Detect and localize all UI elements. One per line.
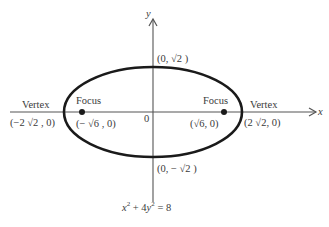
left-vertex-role: Vertex — [22, 99, 50, 110]
left-focus-coord: (− √6 , 0) — [76, 118, 116, 130]
right-focus-point — [221, 109, 227, 115]
bottom-covertex-coord: (0, − √2 ) — [157, 163, 197, 175]
left-focus-point — [79, 109, 85, 115]
right-focus-role: Focus — [203, 95, 228, 106]
equation-rhs: = 8 — [155, 202, 171, 213]
ellipse-diagram: y x 0 Vertex (−2 √2 , 0) Focus (− √6 , 0… — [0, 0, 329, 227]
equation-label: x2 + 4y2 = 8 — [121, 200, 171, 213]
top-covertex-coord: (0, √2 ) — [157, 53, 189, 65]
left-focus-role: Focus — [76, 95, 101, 106]
diagram-canvas: y x 0 Vertex (−2 √2 , 0) Focus (− √6 , 0… — [0, 0, 329, 227]
equation-plus: + 4 — [130, 202, 147, 213]
y-axis-label: y — [145, 8, 151, 19]
right-focus-coord: (√6, 0) — [190, 118, 219, 130]
left-vertex-coord: (−2 √2 , 0) — [10, 117, 55, 129]
right-vertex-role: Vertex — [250, 99, 278, 110]
right-vertex-coord: (2 √2, 0) — [244, 117, 281, 129]
origin-label: 0 — [144, 113, 149, 124]
x-axis-label: x — [317, 106, 323, 117]
